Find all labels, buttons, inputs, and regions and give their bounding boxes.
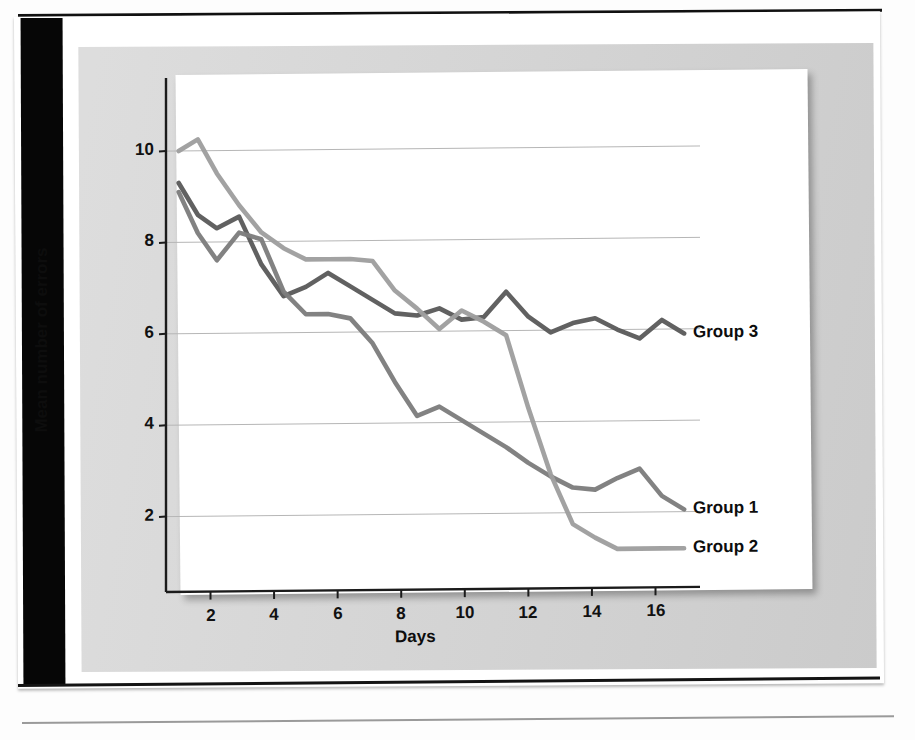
x-tick-label-8: 8 xyxy=(379,604,423,624)
x-tick-label-16: 16 xyxy=(633,601,677,621)
series-line-group-3 xyxy=(179,183,684,338)
y-tick-label-10: 10 xyxy=(104,140,154,160)
axis-lines xyxy=(166,78,700,592)
x-tick-label-4: 4 xyxy=(252,605,296,625)
y-tick-label-8: 8 xyxy=(104,231,154,251)
series-label-group-1: Group 1 xyxy=(693,498,758,518)
x-tick-label-12: 12 xyxy=(506,602,550,622)
y-tick-label-4: 4 xyxy=(104,414,154,434)
gridline-y-10 xyxy=(166,146,700,151)
x-tick-label-2: 2 xyxy=(188,605,232,625)
y-axis-title: Mean number of errors xyxy=(32,220,52,460)
gridline-y-8 xyxy=(166,237,700,242)
chart-canvas xyxy=(0,0,915,740)
scanned-page: 246810246810121416Group 3Group 1Group 2 … xyxy=(0,0,915,740)
x-axis-title: Days xyxy=(395,627,436,647)
y-tick-label-6: 6 xyxy=(104,323,154,343)
series-label-group-3: Group 3 xyxy=(693,322,758,342)
x-tick-label-14: 14 xyxy=(570,602,614,622)
series-label-group-2: Group 2 xyxy=(693,537,758,557)
y-tick-label-2: 2 xyxy=(104,505,154,525)
gridline-y-2 xyxy=(166,511,700,516)
gridline-y-4 xyxy=(166,420,700,425)
x-axis-line xyxy=(166,587,700,592)
data-series xyxy=(179,139,684,548)
x-tick-label-10: 10 xyxy=(443,603,487,623)
series-line-group-2 xyxy=(179,139,684,548)
x-tick-label-6: 6 xyxy=(316,604,360,624)
